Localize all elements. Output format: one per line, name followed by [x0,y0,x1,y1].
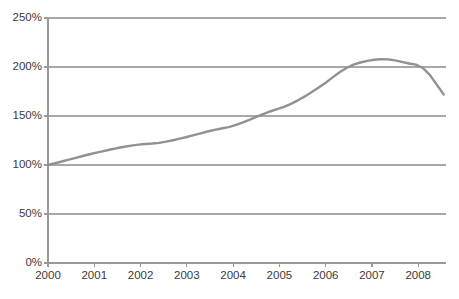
gridlines [48,18,446,214]
y-tick-label: 100% [13,158,42,170]
y-tick-label: 200% [13,60,42,72]
axis-lines [48,18,446,263]
x-tick-label: 2008 [388,269,448,281]
y-tick-label: 0% [25,256,42,268]
y-axis-ticks [44,18,48,263]
y-tick-label: 150% [13,109,42,121]
y-tick-label: 250% [13,11,42,23]
data-series-line [48,59,444,165]
x-axis-ticks [48,263,418,267]
y-tick-label: 50% [19,207,42,219]
chart-container: 0%50%100%150%200%250% 200020012002200320… [0,0,459,299]
line-chart [0,0,459,299]
